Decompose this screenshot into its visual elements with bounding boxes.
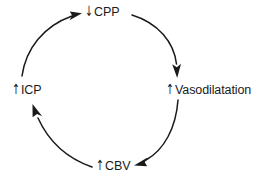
node-text-cbv: CBV [105, 160, 130, 173]
edge-cpp-to-vasodilatation-arrowhead [172, 64, 181, 78]
edge-cbv-to-icp-path [38, 118, 92, 167]
edge-vasodilatation-to-cbv-path [146, 100, 178, 160]
edge-cbv-to-icp-arrowhead [33, 104, 43, 117]
node-text-icp: ICP [21, 84, 42, 97]
edge-vasodilatation-to-cbv [134, 100, 178, 166]
edge-icp-to-cpp [22, 12, 82, 76]
node-label-cbv: ↑CBV [95, 160, 130, 173]
edge-vasodilatation-to-cbv-arrowhead [134, 158, 148, 167]
up-arrow-icon: ↑ [12, 83, 20, 97]
node-label-icp: ↑ICP [11, 84, 42, 97]
node-text-cpp: CPP [94, 6, 119, 19]
down-arrow-icon: ↓ [85, 5, 93, 19]
edge-cpp-to-vasodilatation [132, 15, 181, 78]
edge-cpp-to-vasodilatation-path [132, 15, 177, 64]
node-text-vasodilatation: Vasodilatation [175, 84, 251, 97]
up-arrow-icon: ↑ [166, 83, 174, 97]
node-label-cpp: ↓CPP [84, 6, 119, 19]
vasodilatory-cascade-diagram: ↓CPP ↑Vasodilatation ↑CBV ↑ICP [0, 0, 258, 184]
node-label-vasodilatation: ↑Vasodilatation [165, 84, 251, 97]
edge-cbv-to-icp [33, 104, 93, 167]
edge-icp-to-cpp-path [22, 16, 72, 76]
up-arrow-icon: ↑ [96, 159, 104, 173]
